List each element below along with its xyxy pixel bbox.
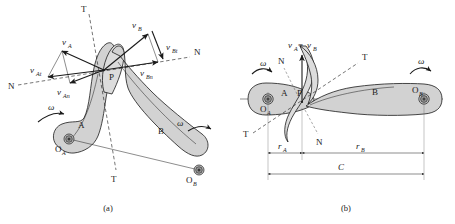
- caption-a: (a): [103, 203, 113, 213]
- pivot-oa-label-b: O: [260, 104, 267, 114]
- caption-b: (b): [341, 203, 351, 213]
- tangent-label-upper-right-b: T: [362, 52, 368, 62]
- label-v-b: v: [132, 20, 136, 30]
- label-v-bt: v: [166, 42, 170, 52]
- label-va-b: v: [288, 40, 292, 50]
- label-v-b-sub: B: [138, 26, 142, 32]
- construction-a-1: [48, 51, 62, 77]
- body-a-label-a: A: [78, 120, 85, 130]
- omega-a-label-panel-b: ω: [260, 58, 266, 68]
- normal-label-right-a: N: [194, 47, 201, 57]
- contact-point-label-b: P: [297, 88, 302, 98]
- construction-a-2: [62, 51, 70, 83]
- omega-a-panel-b: ω: [252, 58, 272, 74]
- label-vb-b: v: [307, 40, 311, 50]
- pivot-ob-label-a: O: [186, 175, 193, 185]
- omega-a-panel-a: ω: [38, 102, 64, 122]
- body-b-shape: [112, 46, 208, 156]
- dimension-ra: r A: [268, 141, 302, 153]
- body-a-label-b: A: [281, 88, 288, 98]
- normal-label-left-a: N: [8, 81, 15, 91]
- tangent-label-top-a: T: [81, 4, 87, 14]
- velocity-labels-a: v A v At v An: [30, 37, 72, 99]
- label-v-an-sub: An: [62, 93, 70, 99]
- label-v-a-sub: A: [67, 43, 72, 49]
- label-v-bt-sub: Bt: [172, 48, 178, 54]
- label-ra-sub: A: [282, 147, 287, 153]
- omega-b-panel-b: ω: [410, 56, 431, 74]
- label-v-bn: v: [140, 68, 144, 78]
- omega-a-label-panel-a: ω: [48, 102, 54, 112]
- pivot-oa-label-a: O: [55, 144, 62, 154]
- normal-label-lower-right-b: N: [316, 137, 323, 147]
- figure-kinematics-contact: O A O B A B T T N N P: [0, 0, 455, 224]
- contact-point-label-a: P: [109, 72, 114, 82]
- label-rb: r: [356, 141, 360, 151]
- pivot-ob-sub-a: B: [193, 181, 197, 187]
- label-vb-sub-b: B: [313, 46, 317, 52]
- omega-b-label-panel-a: ω: [177, 118, 183, 128]
- label-v-bn-sub: Bn: [146, 74, 153, 80]
- body-b-label-b: B: [372, 87, 378, 97]
- construction-b-1: [148, 34, 158, 62]
- panel-a: O A O B A B T T N N P: [8, 4, 211, 213]
- label-v-a: v: [62, 37, 66, 47]
- panel-b: O A O B A B P T T N N v A = v B: [240, 40, 444, 213]
- label-v-an: v: [57, 87, 61, 97]
- omega-b-label-panel-b: ω: [418, 56, 424, 66]
- velocity-labels-b: v B v Bt v Bn: [132, 20, 178, 80]
- pivot-ob-a: [194, 165, 204, 175]
- label-c: C: [338, 162, 345, 172]
- label-v-at: v: [30, 65, 34, 75]
- tangent-label-lower-left-b: T: [243, 129, 249, 139]
- tangent-label-bottom-a: T: [111, 174, 117, 184]
- pivot-oa-a: [64, 134, 74, 144]
- dimension-c: C: [268, 162, 424, 174]
- normal-leader-lower-b: [305, 110, 318, 134]
- label-equals-b: =: [298, 40, 303, 50]
- label-ra: r: [278, 141, 282, 151]
- label-rb-sub: B: [361, 147, 365, 153]
- pivot-oa-sub-b: A: [266, 110, 271, 116]
- label-v-at-sub: At: [35, 71, 42, 77]
- pivot-ob-label-b: O: [412, 85, 419, 95]
- pivot-ob-sub-b: B: [419, 91, 423, 97]
- body-b-label-a: B: [158, 126, 164, 136]
- normal-label-upper-left-b: N: [278, 56, 285, 66]
- vector-v-bt: [152, 31, 163, 59]
- pivot-oa-sub-a: A: [61, 150, 66, 156]
